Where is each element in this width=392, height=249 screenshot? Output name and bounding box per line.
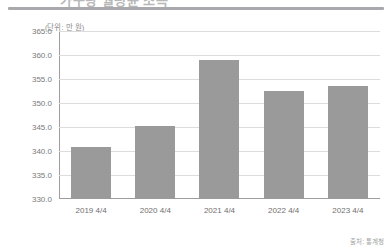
x-axis-tick-label: 2021 4/4 <box>204 206 235 215</box>
bar-group: 2021 4/4 <box>187 31 251 199</box>
bar-group: 2020 4/4 <box>123 31 187 199</box>
bar[interactable] <box>199 60 239 199</box>
bar[interactable] <box>264 91 304 199</box>
y-axis-tick-label: 365.0 <box>32 27 52 36</box>
bar[interactable] <box>135 126 175 199</box>
y-axis-tick-label: 355.0 <box>32 75 52 84</box>
gridline <box>59 199 380 200</box>
bar[interactable] <box>328 86 368 199</box>
bar-group: 2022 4/4 <box>252 31 316 199</box>
x-axis-tick-label: 2020 4/4 <box>140 206 171 215</box>
x-axis-tick-label: 2022 4/4 <box>268 206 299 215</box>
bar-group: 2023 4/4 <box>316 31 380 199</box>
plot-area: 330.0335.0340.0345.0350.0355.0360.0365.0… <box>59 31 380 199</box>
y-axis-tick-label: 350.0 <box>32 99 52 108</box>
header-divider <box>8 7 384 10</box>
y-axis-tick-label: 340.0 <box>32 147 52 156</box>
bar-group: 2019 4/4 <box>59 31 123 199</box>
x-axis-tick-label: 2019 4/4 <box>76 206 107 215</box>
bar[interactable] <box>71 147 111 199</box>
bar-chart: (단위: 만 원) 330.0335.0340.0345.0350.0355.0… <box>0 14 392 236</box>
y-axis-tick-label: 335.0 <box>32 171 52 180</box>
y-axis-tick-label: 330.0 <box>32 195 52 204</box>
y-axis-tick-label: 360.0 <box>32 51 52 60</box>
x-axis-tick-label: 2023 4/4 <box>332 206 363 215</box>
y-axis-tick-label: 345.0 <box>32 123 52 132</box>
bar-series: 2019 4/42020 4/42021 4/42022 4/42023 4/4 <box>59 31 380 199</box>
source-note: 출처: 통계청 <box>350 236 384 246</box>
